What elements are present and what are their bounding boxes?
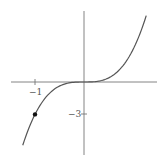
x-tick-label-neg1: −1	[29, 87, 42, 97]
highlighted-point	[33, 112, 37, 116]
cubic-curve	[23, 16, 146, 146]
y-tick-label-neg3: −3	[68, 109, 82, 119]
cubic-function-chart: −1 −3	[0, 0, 164, 163]
plot-area: −1 −3	[0, 0, 164, 163]
